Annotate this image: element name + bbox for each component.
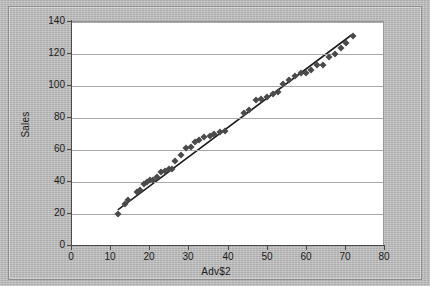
plot-area[interactable] <box>71 21 384 245</box>
y-axis-title: Sales <box>20 95 31 155</box>
data-point-marker[interactable] <box>263 94 270 101</box>
gridline-horizontal <box>71 86 383 87</box>
y-axis-tick-mark <box>67 213 71 214</box>
x-axis-tick-label: 30 <box>173 251 203 262</box>
y-axis-tick-mark <box>67 181 71 182</box>
chart-frame[interactable]: 020406080100120140 Sales Adv$2 010203040… <box>8 6 422 280</box>
y-axis-tick-labels: 020406080100120140 <box>27 7 65 267</box>
y-axis-tick-mark <box>67 21 71 22</box>
x-axis-tick-mark <box>71 246 72 250</box>
y-axis-tick-label: 140 <box>31 16 65 26</box>
data-point-marker[interactable] <box>177 151 184 158</box>
plot-inner <box>71 22 383 245</box>
x-axis-tick-label: 80 <box>369 251 399 262</box>
data-point-marker[interactable] <box>319 62 326 69</box>
x-axis-tick-mark <box>306 246 307 250</box>
y-axis-tick-mark <box>67 53 71 54</box>
gridline-horizontal <box>71 182 383 183</box>
x-axis-tick-label: 20 <box>134 251 164 262</box>
x-axis-tick-mark <box>110 246 111 250</box>
x-axis-title: Adv$2 <box>9 266 423 277</box>
y-axis-tick-label: 20 <box>31 208 65 218</box>
x-axis-tick-label: 50 <box>252 251 282 262</box>
y-axis-tick-label: 80 <box>31 112 65 122</box>
y-axis-tick-mark <box>67 85 71 86</box>
y-axis-tick-label: 60 <box>31 144 65 154</box>
gridline-horizontal <box>71 118 383 119</box>
data-point-marker[interactable] <box>349 33 356 40</box>
y-axis-tick-mark <box>67 117 71 118</box>
y-axis-line <box>71 20 72 246</box>
data-point-marker[interactable] <box>343 39 350 46</box>
y-axis-tick-label: 100 <box>31 80 65 90</box>
x-axis-tick-label: 70 <box>330 251 360 262</box>
y-axis-tick-label: 120 <box>31 48 65 58</box>
x-axis-tick-label: 40 <box>213 251 243 262</box>
x-axis-tick-label: 10 <box>95 251 125 262</box>
gridline-horizontal <box>71 22 383 23</box>
data-point-marker[interactable] <box>114 210 121 217</box>
gridline-horizontal <box>71 150 383 151</box>
y-axis-tick-mark <box>67 149 71 150</box>
data-point-marker[interactable] <box>285 76 292 83</box>
x-axis-tick-label: 0 <box>56 251 86 262</box>
x-axis-tick-mark <box>188 246 189 250</box>
x-axis-tick-mark <box>267 246 268 250</box>
x-axis-tick-mark <box>384 246 385 250</box>
data-point-marker[interactable] <box>275 89 282 96</box>
screenshot-root: 020406080100120140 Sales Adv$2 010203040… <box>0 0 430 286</box>
x-axis-tick-mark <box>228 246 229 250</box>
x-axis-tick-mark <box>345 246 346 250</box>
y-axis-tick-label: 0 <box>31 240 65 250</box>
x-axis-tick-label: 60 <box>291 251 321 262</box>
data-point-marker[interactable] <box>337 44 344 51</box>
y-axis-tick-label: 40 <box>31 176 65 186</box>
data-point-marker[interactable] <box>172 158 179 165</box>
data-point-marker[interactable] <box>222 127 229 134</box>
x-axis-tick-mark <box>149 246 150 250</box>
